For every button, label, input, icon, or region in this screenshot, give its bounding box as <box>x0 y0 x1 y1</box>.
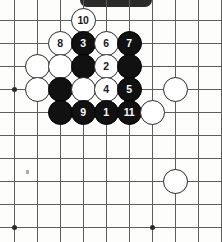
top-artifact-bar <box>80 0 152 7</box>
grid-line-vertical <box>175 0 176 242</box>
stone-w-c2r2[interactable] <box>48 54 73 79</box>
stone-w-c7r3[interactable] <box>163 77 188 102</box>
stone-5-label: 5 <box>126 84 132 95</box>
grid-line-horizontal <box>0 135 222 136</box>
stone-9[interactable]: 9 <box>71 100 96 125</box>
stone-b-c2r4[interactable] <box>48 100 73 125</box>
stone-b-c5r2[interactable] <box>117 54 142 79</box>
stone-2[interactable]: 2 <box>94 54 119 79</box>
stone-11-label: 11 <box>124 107 135 118</box>
grid-line-vertical <box>37 0 38 242</box>
stone-9-label: 9 <box>80 107 86 118</box>
stone-w-c1r3[interactable] <box>25 77 50 102</box>
grid-line-horizontal <box>0 20 222 21</box>
stone-3[interactable]: 3 <box>71 31 96 56</box>
stone-4[interactable]: 4 <box>94 77 119 102</box>
grid-line-vertical <box>14 0 15 242</box>
stone-6[interactable]: 6 <box>94 31 119 56</box>
stone-6-label: 6 <box>103 38 109 49</box>
stone-b-c3r2[interactable] <box>71 54 96 79</box>
grid-line-horizontal <box>0 158 222 159</box>
stone-w-c3r3[interactable] <box>71 77 96 102</box>
scan-speck <box>26 170 29 174</box>
stone-11[interactable]: 11 <box>117 100 142 125</box>
stone-1-label: 1 <box>103 107 109 118</box>
stone-w-c6r4[interactable] <box>140 100 165 125</box>
star-point-bottom-center <box>150 225 155 230</box>
grid-line-horizontal <box>0 204 222 205</box>
grid-line-horizontal <box>0 227 222 228</box>
stone-2-label: 2 <box>103 61 109 72</box>
grid-line-vertical <box>198 0 199 242</box>
stone-b-c2r3[interactable] <box>48 77 73 102</box>
stone-8-label: 8 <box>57 38 63 49</box>
stone-5[interactable]: 5 <box>117 77 142 102</box>
stone-8[interactable]: 8 <box>48 31 73 56</box>
star-point-left <box>12 87 17 92</box>
grid-line-horizontal <box>0 181 222 182</box>
stone-10-label: 10 <box>77 15 88 26</box>
grid-line-vertical <box>221 0 222 242</box>
stone-w-c7r7[interactable] <box>163 169 188 194</box>
go-board-diagram: 1083672459111 <box>0 0 222 242</box>
stone-10[interactable]: 10 <box>71 8 96 33</box>
stone-3-label: 3 <box>80 38 86 49</box>
stone-1[interactable]: 1 <box>94 100 119 125</box>
star-point-bottom-left <box>12 225 17 230</box>
stone-4-label: 4 <box>103 84 109 95</box>
stone-7-label: 7 <box>126 38 132 49</box>
stone-w-c1r2[interactable] <box>25 54 50 79</box>
stone-7[interactable]: 7 <box>117 31 142 56</box>
